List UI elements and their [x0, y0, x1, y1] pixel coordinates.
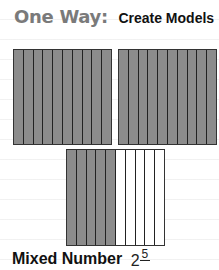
shaded-strip	[53, 50, 63, 144]
mixed-number-label: Mixed Number	[12, 250, 122, 267]
shaded-strip	[102, 50, 111, 144]
model-whole-2	[118, 49, 217, 145]
mixed-number-whole: 2	[131, 252, 140, 269]
shaded-strip	[63, 50, 73, 144]
shaded-strip	[34, 50, 44, 144]
empty-strip	[136, 150, 146, 245]
shaded-strip	[197, 50, 207, 144]
mixed-number-row: Mixed Number 25	[12, 250, 150, 270]
shaded-strip	[148, 50, 158, 144]
shaded-strip	[83, 50, 93, 144]
section-title: One Way: Create Models	[14, 6, 214, 27]
shaded-strip	[92, 50, 102, 144]
shaded-strip	[14, 50, 24, 144]
shaded-strip	[24, 50, 34, 144]
shaded-strip	[73, 50, 83, 144]
model-partial	[66, 149, 165, 246]
title-sub: Create Models	[118, 10, 214, 26]
shaded-strip	[77, 150, 87, 245]
shaded-strip	[43, 50, 53, 144]
shaded-strip	[96, 150, 106, 245]
mixed-number-value: 25	[131, 252, 151, 270]
shaded-strip	[158, 50, 168, 144]
shaded-strip	[67, 150, 77, 245]
shaded-strip	[139, 50, 149, 144]
title-lead: One Way:	[14, 6, 108, 27]
empty-strip	[116, 150, 126, 245]
mixed-number-numerator: 5	[140, 248, 151, 261]
shaded-strip	[168, 50, 178, 144]
empty-strip	[126, 150, 136, 245]
empty-strip	[145, 150, 155, 245]
shaded-strip	[106, 150, 116, 245]
model-whole-1	[13, 49, 112, 145]
shaded-strip	[188, 50, 198, 144]
empty-strip	[155, 150, 164, 245]
shaded-strip	[119, 50, 129, 144]
shaded-strip	[207, 50, 216, 144]
shaded-strip	[129, 50, 139, 144]
shaded-strip	[87, 150, 97, 245]
shaded-strip	[178, 50, 188, 144]
